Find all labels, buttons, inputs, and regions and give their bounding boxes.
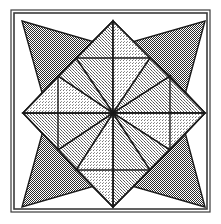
- figure-container: [0, 0, 221, 224]
- star-tiling-figure: [0, 0, 221, 224]
